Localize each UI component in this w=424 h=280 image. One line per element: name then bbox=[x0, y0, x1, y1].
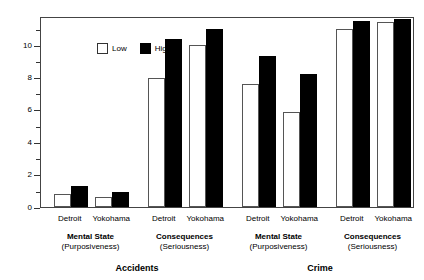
x-measure-label-2: Mental State(Purposiveness) bbox=[250, 232, 308, 252]
chart-figure: 0 2 4 6 8 10 Low High bbox=[0, 0, 424, 280]
domain-label-accidents: Accidents bbox=[115, 263, 158, 273]
x-category-label-1: Yokohama bbox=[92, 215, 130, 223]
chart-legend: Low High bbox=[97, 43, 171, 54]
bar-high-6 bbox=[353, 21, 370, 207]
legend-swatch-high-icon bbox=[140, 43, 151, 54]
x-measure-label-main-1: Consequences bbox=[156, 232, 213, 241]
bar-low-1 bbox=[95, 197, 112, 207]
x-measure-label-sub-3: (Seriousness) bbox=[344, 242, 401, 252]
x-measure-label-sub-0: (Purposiveness) bbox=[62, 242, 120, 252]
y-tick-label-8: 8 bbox=[12, 74, 32, 82]
bar-low-6 bbox=[336, 29, 353, 207]
bar-high-7 bbox=[394, 19, 411, 207]
x-category-label-0: Detroit bbox=[58, 215, 82, 223]
bar-low-3 bbox=[189, 45, 206, 207]
x-measure-label-main-2: Mental State bbox=[255, 232, 302, 241]
x-measure-label-sub-1: (Seriousness) bbox=[156, 242, 213, 252]
x-measure-label-main-0: Mental State bbox=[67, 232, 114, 241]
x-measure-label-0: Mental State(Purposiveness) bbox=[62, 232, 120, 252]
y-tick-label-4: 4 bbox=[12, 139, 32, 147]
y-tick-label-2: 2 bbox=[12, 171, 32, 179]
x-category-label-3: Yokohama bbox=[186, 215, 224, 223]
x-category-label-6: Detroit bbox=[340, 215, 364, 223]
bar-high-3 bbox=[206, 29, 223, 207]
x-measure-label-main-3: Consequences bbox=[344, 232, 401, 241]
y-tick-label-6: 6 bbox=[12, 106, 32, 114]
bar-high-4 bbox=[259, 56, 276, 207]
y-tick-label-0: 0 bbox=[12, 204, 32, 212]
legend-swatch-low-icon bbox=[97, 43, 108, 54]
x-category-label-7: Yokohama bbox=[374, 215, 412, 223]
x-measure-label-1: Consequences(Seriousness) bbox=[156, 232, 213, 252]
x-category-label-2: Detroit bbox=[152, 215, 176, 223]
x-category-label-5: Yokohama bbox=[280, 215, 318, 223]
bar-high-2 bbox=[165, 39, 182, 207]
bar-high-1 bbox=[112, 192, 129, 207]
x-measure-label-sub-2: (Purposiveness) bbox=[250, 242, 308, 252]
y-tick-label-10: 10 bbox=[12, 42, 32, 50]
legend-entry-low: Low bbox=[97, 43, 127, 54]
domain-label-crime: Crime bbox=[307, 263, 333, 273]
bar-low-4 bbox=[242, 84, 259, 207]
bar-low-7 bbox=[377, 22, 394, 207]
legend-entry-high: High bbox=[140, 43, 171, 54]
legend-label-low: Low bbox=[112, 45, 127, 53]
bar-low-2 bbox=[148, 78, 165, 207]
plot-area: Low High bbox=[40, 17, 414, 208]
bar-high-0 bbox=[71, 186, 88, 207]
bar-low-5 bbox=[283, 112, 300, 208]
legend-label-high: High bbox=[155, 45, 171, 53]
bar-high-5 bbox=[300, 74, 317, 207]
x-category-label-4: Detroit bbox=[246, 215, 270, 223]
y-tick-major-0 bbox=[34, 208, 40, 209]
x-measure-label-3: Consequences(Seriousness) bbox=[344, 232, 401, 252]
bar-low-0 bbox=[54, 194, 71, 207]
